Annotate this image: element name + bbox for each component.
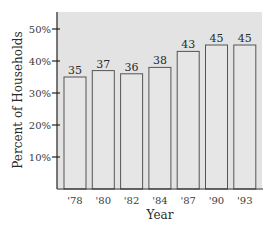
x-axis-title: Year bbox=[146, 208, 174, 222]
bar-value-label: 45 bbox=[238, 32, 252, 45]
bar bbox=[121, 74, 143, 189]
bar bbox=[64, 77, 86, 189]
y-tick-label: 30% bbox=[29, 88, 51, 99]
bar-value-label: 45 bbox=[210, 32, 224, 45]
bar-value-label: 37 bbox=[96, 58, 110, 71]
x-tick-label: '80 bbox=[96, 195, 111, 206]
x-tick-label: '90 bbox=[209, 195, 224, 206]
x-tick-label: '84 bbox=[152, 195, 167, 206]
bar bbox=[177, 51, 199, 189]
y-tick-label: 50% bbox=[29, 24, 51, 35]
y-tick-label: 40% bbox=[29, 56, 51, 67]
bar bbox=[149, 67, 171, 189]
bar-value-label: 43 bbox=[181, 38, 195, 51]
x-tick-label: '78 bbox=[67, 195, 82, 206]
bar bbox=[234, 45, 256, 189]
bar-value-label: 36 bbox=[125, 61, 139, 74]
x-axis-ticks: '78'80'82'84'87'90'93 bbox=[67, 195, 252, 206]
x-tick-label: '93 bbox=[237, 195, 252, 206]
y-tick-label: 10% bbox=[29, 152, 51, 163]
y-axis-title: Percent of Households bbox=[11, 31, 25, 168]
bar bbox=[92, 71, 114, 189]
x-tick-label: '82 bbox=[124, 195, 139, 206]
bar bbox=[206, 45, 228, 189]
y-axis-ticks: 10%20%30%40%50% bbox=[29, 24, 60, 163]
x-tick-label: '87 bbox=[180, 195, 195, 206]
bar-value-label: 38 bbox=[153, 54, 167, 67]
y-tick-label: 20% bbox=[29, 120, 51, 131]
bar-chart: 35373638434545 10%20%30%40%50% '78'80'82… bbox=[0, 0, 276, 232]
bar-value-label: 35 bbox=[68, 64, 82, 77]
